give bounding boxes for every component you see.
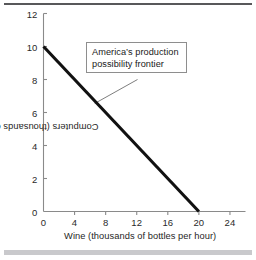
x-axis-tick-label: 24: [225, 217, 236, 228]
x-axis-tick-label: 20: [193, 217, 204, 228]
y-axis-tick-label: 8: [0, 74, 38, 85]
y-axis-tick-label: 12: [0, 8, 38, 19]
y-axis-title-text: Computers (thousands of computers per ho…: [0, 122, 102, 132]
annotation-leader-line: [95, 80, 138, 104]
x-axis-tick-label: 0: [41, 217, 46, 228]
x-axis-tick-label: 16: [162, 217, 173, 228]
ppf-annotation-line-1: America’s production: [92, 46, 186, 58]
y-axis-tick-label: 4: [0, 140, 38, 151]
ppf-annotation-line-2: possibility frontier: [92, 58, 186, 70]
ppf-annotation-box: America’s production possibility frontie…: [86, 42, 187, 73]
y-axis-tick-label: 2: [0, 173, 38, 184]
y-axis-tick-label: 6: [0, 107, 38, 118]
x-axis-tick-label: 8: [103, 217, 108, 228]
y-axis-tick-label: 0: [0, 206, 38, 217]
y-axis-tick-label: 10: [0, 41, 38, 52]
x-axis-title: Wine (thousands of bottles per hour): [64, 231, 216, 241]
x-axis-tick-label: 4: [72, 217, 77, 228]
chart-figure: 04812162024 024681012 Wine (thousands of…: [0, 0, 256, 260]
x-axis-tick-label: 12: [131, 217, 142, 228]
